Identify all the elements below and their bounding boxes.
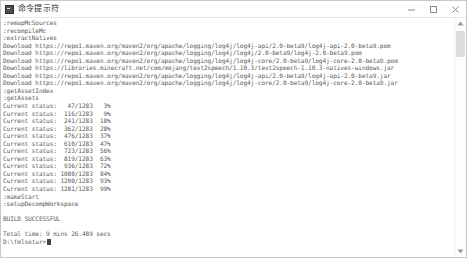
scrollbar-thumb[interactable] <box>456 31 465 57</box>
console-line: Download https://repo1.maven.org/maven2/… <box>3 79 454 87</box>
console-line: :extractNatives <box>3 34 454 42</box>
window-controls <box>400 1 466 17</box>
console-line: Current status: 610/1283 47% <box>3 140 454 148</box>
console-line: :remapMcSources <box>3 19 454 27</box>
console-line: :getAssets <box>3 94 454 102</box>
minimize-button[interactable] <box>400 1 422 17</box>
console-line: Download https://libraries.minecraft.net… <box>3 64 454 72</box>
console-line: Current status: 116/1283 9% <box>3 110 454 118</box>
console-icon <box>5 5 14 14</box>
close-button[interactable] <box>444 1 466 17</box>
window-title: 命令提示符 <box>18 4 59 14</box>
console-line: Current status: 47/1283 3% <box>3 102 454 110</box>
console-line: Current status: 936/1283 72% <box>3 162 454 170</box>
console-line: Current status: 1080/1283 84% <box>3 170 454 178</box>
console-line: :makeStart <box>3 193 454 201</box>
console-line: Current status: 723/1283 56% <box>3 147 454 155</box>
console-line: Current status: 1281/1283 99% <box>3 185 454 193</box>
console-line: Current status: 819/1283 63% <box>3 155 454 163</box>
console-line: :setupDecompWorkspace <box>3 200 454 208</box>
vertical-scrollbar[interactable] <box>454 18 466 257</box>
console-line: BUILD SUCCESSFUL <box>3 215 454 223</box>
console-line <box>3 223 454 231</box>
console-output[interactable]: :remapMcSources:recompileMc:extractNativ… <box>1 18 454 257</box>
console-line: Current status: 1200/1283 93% <box>3 177 454 185</box>
console-line: Current status: 476/1283 37% <box>3 132 454 140</box>
command-prompt-line[interactable]: D:\fmlsotur> <box>3 238 454 246</box>
console-line: :recompileMc <box>3 27 454 35</box>
console-body: :remapMcSources:recompileMc:extractNativ… <box>1 18 466 257</box>
scroll-down-icon[interactable] <box>455 246 466 257</box>
console-window: 命令提示符 :remapMcSources:recompileMc:extrac… <box>0 0 467 258</box>
scroll-up-icon[interactable] <box>455 18 466 29</box>
console-line: Current status: 362/1283 28% <box>3 125 454 133</box>
prompt-path: D:\fmlsotur> <box>3 238 46 245</box>
scrollbar-track[interactable] <box>455 29 466 246</box>
console-line: :getAssetIndex <box>3 87 454 95</box>
text-cursor <box>47 239 51 245</box>
console-line: Download https://repo1.maven.org/maven2/… <box>3 42 454 50</box>
console-line: Download https://repo1.maven.org/maven2/… <box>3 49 454 57</box>
maximize-button[interactable] <box>422 1 444 17</box>
console-line: Download https://repo1.maven.org/maven2/… <box>3 72 454 80</box>
console-line: Download https://repo1.maven.org/maven2/… <box>3 57 454 65</box>
console-line: Total time: 9 mins 26.489 secs <box>3 230 454 238</box>
title-bar[interactable]: 命令提示符 <box>1 1 466 18</box>
console-line <box>3 208 454 216</box>
console-line: Current status: 241/1283 18% <box>3 117 454 125</box>
